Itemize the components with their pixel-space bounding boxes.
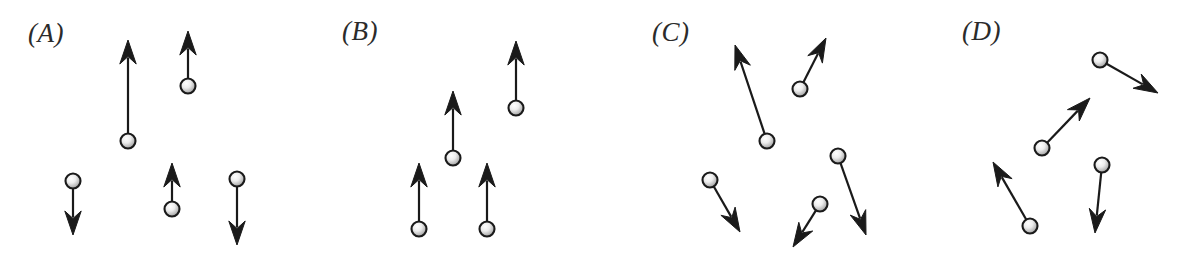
vector-d1 [1093, 53, 1159, 94]
panel-label-a: (A) [28, 20, 64, 47]
particle-ball [121, 134, 136, 149]
particle-ball [1095, 158, 1110, 173]
vector-shaft [1047, 111, 1078, 143]
particle-ball [793, 82, 808, 97]
arrowhead-icon [993, 162, 1012, 187]
particle-ball [1093, 53, 1108, 68]
particle-ball [703, 173, 718, 188]
particle-ball [181, 79, 196, 94]
vector-a1 [120, 40, 136, 149]
panel-label-b: (B) [342, 18, 378, 45]
particle-ball [760, 134, 775, 149]
particle-ball [509, 101, 524, 116]
vector-shaft [802, 210, 816, 232]
vector-a2 [180, 31, 196, 94]
vector-shaft [714, 186, 732, 217]
particle-ball [480, 222, 495, 237]
vector-b1 [508, 41, 524, 116]
particle-ball [1023, 219, 1038, 234]
vector-drawing-layer [0, 0, 1190, 261]
arrowhead-icon [1133, 74, 1158, 93]
particle-ball [813, 197, 828, 212]
vector-c3 [703, 173, 741, 233]
vector-a5 [229, 172, 245, 246]
particle-ball [1035, 141, 1050, 156]
vector-c5 [831, 149, 867, 236]
vector-c1 [735, 45, 775, 149]
vector-shaft [803, 54, 818, 83]
vector-b3 [411, 163, 427, 237]
vector-c4 [793, 197, 828, 248]
arrowhead-icon [808, 38, 826, 63]
particle-ball [165, 202, 180, 217]
panel-c-vectors [703, 38, 867, 247]
particle-ball [66, 174, 81, 189]
particle-ball [831, 149, 846, 164]
arrowhead-icon [721, 207, 740, 232]
panel-d-vectors [993, 53, 1158, 234]
vector-b2 [445, 91, 461, 166]
vector-b4 [479, 163, 495, 237]
vector-d2 [1035, 98, 1091, 156]
particle-ball [446, 151, 461, 166]
panel-a-vectors [65, 31, 245, 245]
vector-d3 [993, 162, 1038, 234]
panel-label-c: (C) [652, 19, 690, 46]
panel-b-vectors [411, 41, 524, 237]
particle-ball [230, 172, 245, 187]
vector-shaft [741, 62, 765, 135]
vector-c2 [793, 38, 827, 97]
arrowhead-icon [793, 222, 813, 247]
vector-d4 [1089, 158, 1109, 234]
vector-shaft [1106, 63, 1143, 84]
vector-a3 [65, 174, 81, 236]
vector-shaft [840, 163, 860, 219]
vector-shaft [1097, 172, 1101, 216]
particle-ball [412, 222, 427, 237]
vector-figure: (A)(B)(C)(D) [0, 0, 1190, 261]
vector-a4 [164, 163, 180, 217]
vector-shaft [1002, 177, 1027, 220]
panel-label-d: (D) [962, 18, 1001, 45]
